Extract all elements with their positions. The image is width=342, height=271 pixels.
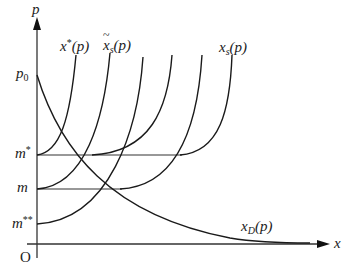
label-x-s-base: x xyxy=(219,39,226,55)
label-x-star: x*(p) xyxy=(60,38,89,54)
label-x-d-sub: D xyxy=(248,225,255,236)
label-x-d-arg: (p) xyxy=(255,218,273,234)
label-x-s: xs(p) xyxy=(219,40,247,57)
y-axis-arrow-icon xyxy=(33,17,41,30)
curve-x-star xyxy=(37,55,76,155)
label-x-d-base: x xyxy=(241,218,248,234)
label-x-tilde-s-base: x xyxy=(103,38,110,53)
tick-m-star: m* xyxy=(15,145,31,161)
tick-m-base: m xyxy=(17,179,28,195)
tick-m-star-base: m xyxy=(15,145,26,161)
tick-m-double-star-base: m xyxy=(12,215,23,231)
curve-x-s xyxy=(180,55,232,155)
label-x-s-arg: (p) xyxy=(230,39,248,55)
tick-p0: p0 xyxy=(16,66,29,83)
label-x-tilde-s-arg: (p) xyxy=(114,37,132,53)
curve-supply-4 xyxy=(92,55,172,155)
origin-label: O xyxy=(20,250,31,265)
label-x-tilde-s: xs(p) xyxy=(103,38,131,55)
supply-demand-diagram xyxy=(0,0,342,271)
tick-m: m xyxy=(17,180,28,195)
x-axis-label: x xyxy=(334,236,341,251)
x-axis-arrow-icon xyxy=(317,240,330,248)
tick-m-double-star: m** xyxy=(12,215,33,231)
label-x-d: xD(p) xyxy=(241,219,272,236)
tick-m-double-star-sup: ** xyxy=(23,214,33,225)
tick-p0-base: p xyxy=(16,65,24,81)
y-axis-label: p xyxy=(32,2,40,17)
label-x-star-base: x xyxy=(60,38,67,54)
tick-p0-sub: 0 xyxy=(24,72,29,83)
tick-m-star-sup: * xyxy=(26,144,31,155)
axes xyxy=(27,26,320,258)
label-x-star-arg: (p) xyxy=(72,38,90,54)
